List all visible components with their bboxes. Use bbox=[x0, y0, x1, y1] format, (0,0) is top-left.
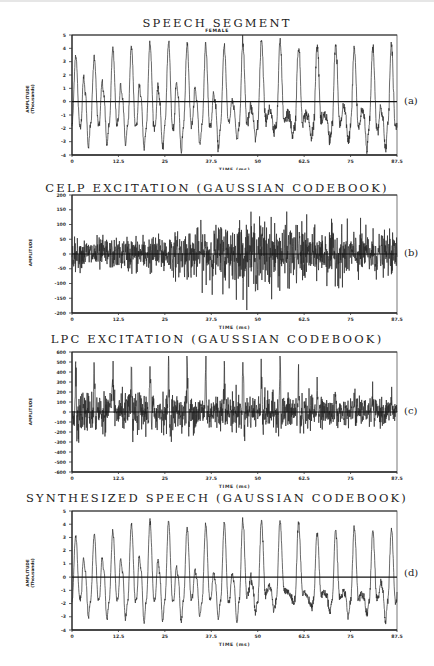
y-tick-label: -1 bbox=[61, 588, 66, 593]
x-tick-label: 62.5 bbox=[298, 159, 309, 164]
plot-frame bbox=[72, 35, 397, 155]
chart-panel-a: SPEECH SEGMENT FEMALE 543210-1-2-3-4012.… bbox=[0, 0, 434, 170]
y-tick-label: -3 bbox=[61, 614, 66, 619]
x-tick-label: 12.5 bbox=[113, 634, 124, 639]
y-tick-label: -1 bbox=[61, 113, 66, 118]
y-tick-label: 500 bbox=[56, 360, 66, 365]
x-tick-label: 50 bbox=[255, 476, 261, 481]
x-tick-label: 0 bbox=[70, 634, 73, 639]
y-tick-label: -500 bbox=[55, 460, 67, 465]
y-tick-label: -3 bbox=[61, 139, 66, 144]
y-axis-label: AMPLITUDE (Thousands) bbox=[25, 553, 35, 593]
y-tick-label: 4 bbox=[63, 46, 66, 51]
panel-label: (c) bbox=[404, 405, 417, 416]
y-tick-label: -100 bbox=[55, 420, 67, 425]
x-tick-label: 25 bbox=[162, 159, 168, 164]
y-tick-label: 5 bbox=[63, 509, 66, 514]
x-tick-label: 75 bbox=[347, 476, 353, 481]
y-tick-label: -200 bbox=[55, 311, 67, 316]
x-tick-label: 87.5 bbox=[391, 476, 402, 481]
x-tick-label: 62.5 bbox=[298, 476, 309, 481]
x-tick-label: 12.5 bbox=[113, 317, 124, 322]
x-tick-label: 12.5 bbox=[113, 476, 124, 481]
y-tick-label: -200 bbox=[55, 430, 67, 435]
plot-area: 543210-1-2-3-4012.52537.55062.57587.5TIM… bbox=[0, 490, 434, 666]
plot-area: 200150100500-50-100-150-200012.52537.550… bbox=[0, 170, 434, 330]
y-axis-label: AMPLITUDE (Thousands) bbox=[25, 79, 35, 119]
x-tick-label: 0 bbox=[70, 317, 73, 322]
panel-label: (b) bbox=[404, 247, 418, 258]
y-axis-label: AMPLITUDE bbox=[28, 392, 33, 432]
y-tick-label: -300 bbox=[55, 440, 67, 445]
y-tick-label: 50 bbox=[60, 237, 66, 242]
y-tick-label: -2 bbox=[61, 601, 66, 606]
x-tick-label: 0 bbox=[70, 476, 73, 481]
y-tick-label: 2 bbox=[63, 73, 66, 78]
x-tick-label: 37.5 bbox=[206, 634, 217, 639]
x-tick-label: 37.5 bbox=[206, 159, 217, 164]
x-tick-label: 50 bbox=[255, 317, 261, 322]
chart-panel-b: CELP EXCITATION (GAUSSIAN CODEBOOK) 2001… bbox=[0, 170, 434, 330]
plot-area: 543210-1-2-3-4012.52537.55062.57587.5TIM… bbox=[0, 0, 434, 170]
panel-label: (a) bbox=[404, 95, 418, 106]
y-tick-label: 0 bbox=[63, 99, 66, 104]
y-tick-label: 400 bbox=[56, 370, 66, 375]
waveform-line bbox=[72, 518, 397, 625]
x-tick-label: 75 bbox=[347, 159, 353, 164]
x-tick-label: 25 bbox=[162, 317, 168, 322]
y-tick-label: -600 bbox=[55, 470, 67, 475]
x-tick-label: 25 bbox=[162, 476, 168, 481]
y-tick-label: -100 bbox=[55, 281, 67, 286]
x-tick-label: 87.5 bbox=[391, 317, 402, 322]
waveform-line bbox=[72, 212, 397, 310]
x-tick-label: 50 bbox=[255, 159, 261, 164]
x-tick-label: 0 bbox=[70, 159, 73, 164]
y-tick-label: 0 bbox=[63, 575, 66, 580]
x-tick-label: 87.5 bbox=[391, 634, 402, 639]
x-tick-label: 62.5 bbox=[298, 317, 309, 322]
y-tick-label: 100 bbox=[56, 222, 66, 227]
y-tick-label: -400 bbox=[55, 450, 67, 455]
y-tick-label: 200 bbox=[56, 193, 66, 198]
y-tick-label: -4 bbox=[61, 628, 66, 633]
chart-panel-c: LPC EXCITATION (GAUSSIAN CODEBOOK) 60050… bbox=[0, 330, 434, 490]
panel-label: (d) bbox=[404, 567, 418, 578]
x-tick-label: 75 bbox=[347, 634, 353, 639]
y-tick-label: 2 bbox=[63, 548, 66, 553]
y-tick-label: 4 bbox=[63, 522, 66, 527]
x-tick-label: 75 bbox=[347, 317, 353, 322]
y-tick-label: 1 bbox=[63, 86, 66, 91]
x-tick-label: 50 bbox=[255, 634, 261, 639]
y-axis-label: AMPLITUDE bbox=[28, 233, 33, 273]
y-tick-label: 100 bbox=[56, 400, 66, 405]
x-tick-label: 87.5 bbox=[391, 159, 402, 164]
y-tick-label: -50 bbox=[58, 266, 66, 271]
chart-panel-d: SYNTHESIZED SPEECH (GAUSSIAN CODEBOOK) 5… bbox=[0, 490, 434, 666]
x-axis-label: TIME (ms) bbox=[219, 484, 250, 489]
plot-frame bbox=[72, 511, 397, 630]
y-tick-label: 0 bbox=[63, 252, 66, 257]
x-tick-label: 12.5 bbox=[113, 159, 124, 164]
y-tick-label: 600 bbox=[56, 350, 66, 355]
y-tick-label: 300 bbox=[56, 380, 66, 385]
y-tick-label: -2 bbox=[61, 126, 66, 131]
y-tick-label: 0 bbox=[63, 410, 66, 415]
y-tick-label: 3 bbox=[63, 535, 66, 540]
y-tick-label: 3 bbox=[63, 59, 66, 64]
waveform-line bbox=[72, 356, 397, 443]
y-tick-label: 1 bbox=[63, 561, 66, 566]
y-tick-label: 150 bbox=[56, 207, 66, 212]
x-tick-label: 62.5 bbox=[298, 634, 309, 639]
y-tick-label: 5 bbox=[63, 33, 66, 38]
y-tick-label: -4 bbox=[61, 153, 66, 158]
waveform-line bbox=[72, 35, 397, 154]
x-tick-label: 37.5 bbox=[206, 317, 217, 322]
y-tick-label: 200 bbox=[56, 390, 66, 395]
plot-area: 6005004003002001000-100-200-300-400-500-… bbox=[0, 330, 434, 490]
y-tick-label: -150 bbox=[55, 296, 67, 301]
x-tick-label: 25 bbox=[162, 634, 168, 639]
x-axis-label: TIME (ms) bbox=[219, 642, 250, 647]
x-tick-label: 37.5 bbox=[206, 476, 217, 481]
